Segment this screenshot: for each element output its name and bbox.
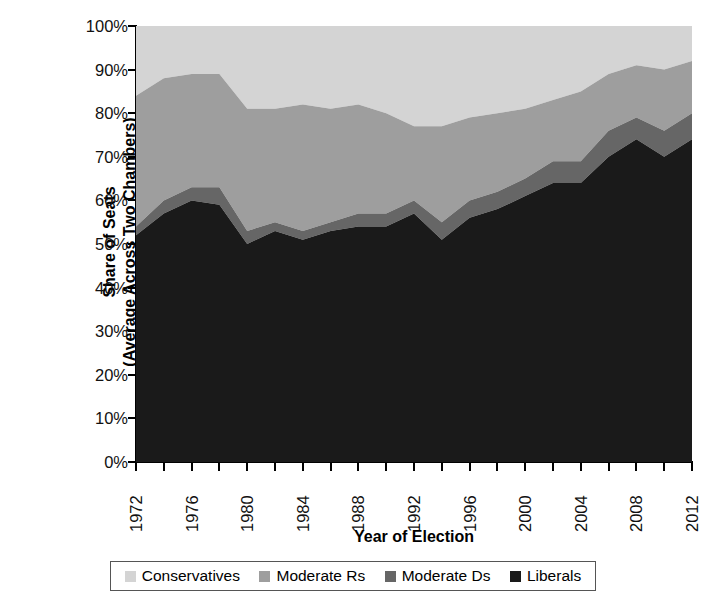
legend-swatch-icon xyxy=(259,571,270,582)
x-tick-mark xyxy=(635,463,637,471)
x-tick-label: 2000 xyxy=(516,472,534,532)
y-tick-mark xyxy=(128,69,136,71)
y-tick-mark xyxy=(128,199,136,201)
x-tick-mark xyxy=(608,463,610,471)
legend-swatch-icon xyxy=(385,571,396,582)
y-tick-mark xyxy=(128,156,136,158)
area-series-group xyxy=(136,26,692,462)
y-tick-label: 40% xyxy=(44,280,128,296)
x-tick-label: 2012 xyxy=(683,472,701,532)
x-tick-mark xyxy=(246,463,248,471)
legend-label: Moderate Ds xyxy=(402,568,491,584)
x-tick-mark xyxy=(385,463,387,471)
legend-item: Liberals xyxy=(510,568,581,584)
y-tick-mark xyxy=(128,112,136,114)
x-tick-label: 1972 xyxy=(127,472,145,532)
y-tick-mark xyxy=(128,330,136,332)
x-tick-mark xyxy=(357,463,359,471)
y-tick-label: 10% xyxy=(44,410,128,426)
x-tick-label: 1988 xyxy=(349,472,367,532)
x-tick-mark xyxy=(413,463,415,471)
x-tick-mark xyxy=(441,463,443,471)
y-tick-label: 50% xyxy=(44,236,128,252)
legend-label: Conservatives xyxy=(142,568,240,584)
x-tick-mark xyxy=(191,463,193,471)
x-tick-label: 1980 xyxy=(238,472,256,532)
x-tick-mark xyxy=(469,463,471,471)
x-tick-label: 1976 xyxy=(183,472,201,532)
legend-swatch-icon xyxy=(125,571,136,582)
y-tick-label: 30% xyxy=(44,323,128,339)
y-tick-label: 0% xyxy=(44,454,128,470)
x-tick-label: 2008 xyxy=(627,472,645,532)
legend-label: Moderate Rs xyxy=(276,568,365,584)
legend-item: Moderate Rs xyxy=(259,568,365,584)
stacked-area-chart: Share of Seats (Average Across Two Chamb… xyxy=(0,0,708,599)
x-tick-mark xyxy=(135,463,137,471)
x-tick-mark xyxy=(218,463,220,471)
plot-area xyxy=(136,26,692,462)
y-tick-label: 100% xyxy=(44,18,128,34)
y-tick-mark xyxy=(128,417,136,419)
x-tick-mark xyxy=(524,463,526,471)
legend-item: Conservatives xyxy=(125,568,240,584)
y-tick-mark xyxy=(128,25,136,27)
x-tick-label: 1996 xyxy=(461,472,479,532)
legend-label: Liberals xyxy=(527,568,581,584)
y-tick-label: 20% xyxy=(44,367,128,383)
x-tick-mark xyxy=(302,463,304,471)
x-tick-mark xyxy=(691,463,693,471)
y-tick-label: 90% xyxy=(44,62,128,78)
x-tick-mark xyxy=(496,463,498,471)
y-tick-label: 70% xyxy=(44,149,128,165)
x-tick-mark xyxy=(552,463,554,471)
x-tick-mark xyxy=(330,463,332,471)
x-tick-mark xyxy=(163,463,165,471)
legend-item: Moderate Ds xyxy=(385,568,491,584)
chart-legend: ConservativesModerate RsModerate DsLiber… xyxy=(110,561,596,591)
x-tick-mark xyxy=(274,463,276,471)
y-tick-mark xyxy=(128,287,136,289)
y-tick-label: 60% xyxy=(44,192,128,208)
y-tick-mark xyxy=(128,243,136,245)
x-tick-label: 1984 xyxy=(294,472,312,532)
x-tick-label: 2004 xyxy=(572,472,590,532)
x-tick-label: 1992 xyxy=(405,472,423,532)
x-tick-mark xyxy=(663,463,665,471)
legend-swatch-icon xyxy=(510,571,521,582)
y-axis-tick-labels: 0%10%20%30%40%50%60%70%80%90%100% xyxy=(44,26,128,462)
y-tick-label: 80% xyxy=(44,105,128,121)
x-tick-mark xyxy=(580,463,582,471)
x-axis-title: Year of Election xyxy=(136,528,692,546)
y-tick-mark xyxy=(128,374,136,376)
